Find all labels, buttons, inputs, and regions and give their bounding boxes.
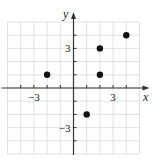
x-tick-label: 3 <box>110 91 116 103</box>
y-tick-label: 3 <box>65 42 71 54</box>
coordinate-plane: −333−3 x y <box>0 0 158 166</box>
y-axis-label: y <box>62 7 69 21</box>
y-tick-label: −3 <box>59 122 71 134</box>
data-point <box>84 111 90 117</box>
data-point <box>97 72 103 78</box>
x-tick-label: −3 <box>28 91 40 103</box>
x-axis-label: x <box>142 90 149 104</box>
data-point <box>97 45 103 51</box>
y-axis-arrow-icon <box>71 12 76 19</box>
data-point <box>44 72 50 78</box>
data-point <box>123 32 129 38</box>
